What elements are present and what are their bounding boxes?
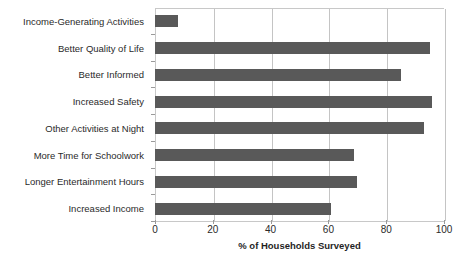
x-axis-title: % of Households Surveyed: [155, 240, 444, 251]
x-tick-label: 80: [381, 224, 392, 235]
bar-row: [155, 142, 444, 169]
bar: [155, 15, 178, 27]
category-label: Increased Income: [0, 195, 150, 222]
x-tick-label: 100: [436, 224, 453, 235]
x-axis-tick-labels: 020406080100: [0, 224, 476, 240]
category-label: More Time for Schoolwork: [0, 142, 150, 169]
category-label: Better Informed: [0, 62, 150, 89]
category-label: Longer Entertainment Hours: [0, 169, 150, 196]
x-tick-label: 0: [152, 224, 158, 235]
category-axis-labels: Income-Generating ActivitiesBetter Quali…: [0, 8, 150, 222]
x-tick-mark: [213, 220, 214, 224]
bar-rows: [155, 8, 444, 222]
category-label: Other Activities at Night: [0, 115, 150, 142]
x-tick-mark: [271, 220, 272, 224]
bar: [155, 176, 357, 188]
x-tick-mark: [155, 220, 156, 224]
x-tick-mark: [444, 220, 445, 224]
chart-page: Income-Generating ActivitiesBetter Quali…: [0, 0, 476, 269]
bar-row: [155, 88, 444, 115]
x-tick-mark: [328, 220, 329, 224]
bar: [155, 203, 331, 215]
bar: [155, 69, 401, 81]
bar: [155, 96, 432, 108]
bar: [155, 149, 354, 161]
bar-row: [155, 115, 444, 142]
bar-row: [155, 8, 444, 35]
bar-row: [155, 62, 444, 89]
bar: [155, 42, 430, 54]
bar-chart: Income-Generating ActivitiesBetter Quali…: [0, 0, 476, 269]
gridline-100: [445, 9, 446, 221]
x-tick-mark: [386, 220, 387, 224]
bar-row: [155, 169, 444, 196]
category-label: Increased Safety: [0, 88, 150, 115]
bar-row: [155, 35, 444, 62]
bar-row: [155, 195, 444, 222]
x-tick-label: 40: [265, 224, 276, 235]
x-tick-label: 60: [323, 224, 334, 235]
bar: [155, 122, 424, 134]
x-tick-label: 20: [207, 224, 218, 235]
category-label: Better Quality of Life: [0, 35, 150, 62]
category-label: Income-Generating Activities: [0, 8, 150, 35]
